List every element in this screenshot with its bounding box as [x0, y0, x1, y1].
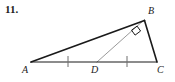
segment-bc: [145, 21, 158, 63]
vertex-label-c: C: [157, 65, 164, 75]
vertex-label-d: D: [91, 65, 98, 75]
vertex-label-a: A: [22, 65, 28, 75]
geometry-problem-figure: 11. A B C D: [0, 0, 175, 82]
vertex-label-b: B: [148, 6, 154, 16]
segment-ab: [31, 21, 145, 63]
